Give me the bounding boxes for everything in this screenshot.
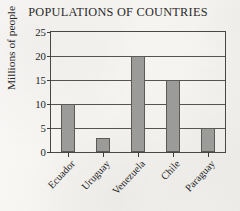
y-axis-tick-label: 0 bbox=[41, 146, 46, 158]
y-axis-tick-label: 20 bbox=[35, 50, 46, 62]
x-axis-labels: EcuadorUruguayVenezuelaChileParaguay bbox=[50, 156, 226, 211]
y-axis-tick-mark bbox=[47, 104, 51, 105]
y-axis-tick-label: 15 bbox=[35, 74, 46, 86]
y-axis-tick-label: 10 bbox=[35, 98, 46, 110]
y-axis-tick-mark bbox=[47, 152, 51, 153]
bar bbox=[201, 128, 215, 152]
y-axis-title: Millions of people bbox=[5, 0, 17, 107]
bar bbox=[131, 56, 145, 152]
y-axis-tick-mark bbox=[47, 128, 51, 129]
y-axis-tick-label: 5 bbox=[41, 122, 46, 134]
y-axis-tick-mark bbox=[47, 80, 51, 81]
bar bbox=[166, 80, 180, 152]
bar-chart-figure: POPULATIONS OF COUNTRIES Millions of peo… bbox=[0, 0, 240, 211]
y-axis-tick-label: 25 bbox=[35, 26, 46, 38]
y-axis-tick-mark bbox=[47, 32, 51, 33]
bar bbox=[96, 138, 110, 152]
plot-area: 0510152025 bbox=[50, 31, 226, 153]
bar bbox=[61, 104, 75, 152]
y-axis-tick-mark bbox=[47, 56, 51, 57]
chart-title: POPULATIONS OF COUNTRIES bbox=[0, 5, 236, 20]
